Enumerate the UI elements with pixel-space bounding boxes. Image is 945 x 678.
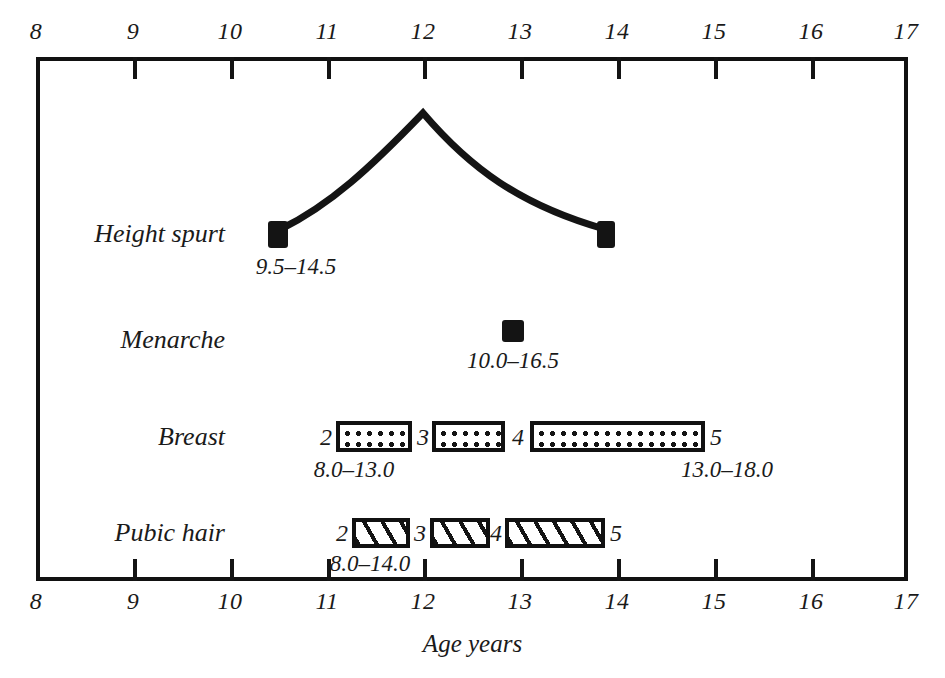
row-label-menarche: Menarche — [0, 325, 225, 355]
top-tick-label-17: 17 — [894, 18, 919, 45]
breast-stage-number-4: 4 — [512, 424, 524, 451]
top-tick-10 — [230, 57, 234, 79]
bottom-tick-13 — [520, 559, 524, 581]
pubic-hair-stage-number-3: 3 — [414, 520, 426, 547]
row-label-breast: Breast — [0, 422, 225, 452]
pubic-hair-stage-number-2: 2 — [336, 520, 348, 547]
breast-stage-number-3: 3 — [417, 424, 429, 451]
breast-bar-stage-4-to-5 — [530, 421, 705, 452]
bottom-tick-16 — [811, 559, 815, 581]
top-tick-label-15: 15 — [702, 18, 727, 45]
breast-range-label-right: 13.0–18.0 — [681, 457, 773, 483]
top-tick-11 — [327, 57, 331, 79]
pubic-hair-range-label-left: 8.0–14.0 — [330, 551, 411, 577]
bottom-tick-label-14: 14 — [605, 588, 630, 615]
menarche-marker — [502, 320, 524, 342]
top-tick-13 — [520, 57, 524, 79]
pubic-hair-stage-number-4: 4 — [490, 520, 502, 547]
breast-range-label-left: 8.0–13.0 — [314, 457, 395, 483]
top-tick-label-14: 14 — [605, 18, 630, 45]
top-tick-15 — [714, 57, 718, 79]
breast-bar-stage-3-to-4 — [432, 421, 505, 452]
bottom-tick-9 — [133, 559, 137, 581]
plot-frame — [36, 57, 908, 581]
height-spurt-range-label: 9.5–14.5 — [256, 254, 337, 280]
bottom-tick-label-17: 17 — [894, 588, 919, 615]
bottom-tick-label-12: 12 — [411, 588, 436, 615]
top-tick-label-8: 8 — [30, 18, 43, 45]
pubic-hair-bar-stage-3-to-4 — [430, 518, 490, 548]
row-label-pubic-hair: Pubic hair — [0, 518, 225, 548]
bottom-tick-10 — [230, 559, 234, 581]
top-tick-9 — [133, 57, 137, 79]
bottom-tick-14 — [617, 559, 621, 581]
top-tick-12 — [423, 57, 427, 79]
puberty-stages-figure: 8 9 10 11 12 13 14 15 16 17 Height spurt… — [0, 0, 945, 678]
bottom-tick-label-10: 10 — [218, 588, 243, 615]
top-tick-16 — [811, 57, 815, 79]
bottom-tick-label-15: 15 — [702, 588, 727, 615]
breast-stage-number-5: 5 — [710, 424, 722, 451]
top-tick-label-9: 9 — [127, 18, 140, 45]
pubic-hair-stage-number-5: 5 — [610, 520, 622, 547]
bottom-tick-label-8: 8 — [30, 588, 43, 615]
height-spurt-end-marker — [597, 221, 615, 248]
bottom-tick-label-16: 16 — [799, 588, 824, 615]
bottom-tick-12 — [423, 559, 427, 581]
top-tick-label-13: 13 — [508, 18, 533, 45]
bottom-tick-label-13: 13 — [508, 588, 533, 615]
breast-bar-stage-2-to-3 — [336, 421, 412, 452]
top-tick-label-11: 11 — [315, 18, 338, 45]
height-spurt-start-marker — [268, 221, 288, 248]
bottom-tick-label-11: 11 — [315, 588, 338, 615]
bottom-tick-label-9: 9 — [127, 588, 140, 615]
top-tick-14 — [617, 57, 621, 79]
top-tick-label-10: 10 — [218, 18, 243, 45]
pubic-hair-bar-stage-2-to-3 — [352, 518, 410, 548]
top-tick-label-16: 16 — [799, 18, 824, 45]
bottom-tick-15 — [714, 559, 718, 581]
breast-stage-number-2: 2 — [320, 424, 332, 451]
top-tick-label-12: 12 — [411, 18, 436, 45]
menarche-range-label: 10.0–16.5 — [467, 348, 559, 374]
pubic-hair-bar-stage-4-to-5 — [505, 518, 605, 548]
x-axis-caption: Age years — [0, 630, 945, 658]
row-label-height-spurt: Height spurt — [0, 219, 225, 249]
